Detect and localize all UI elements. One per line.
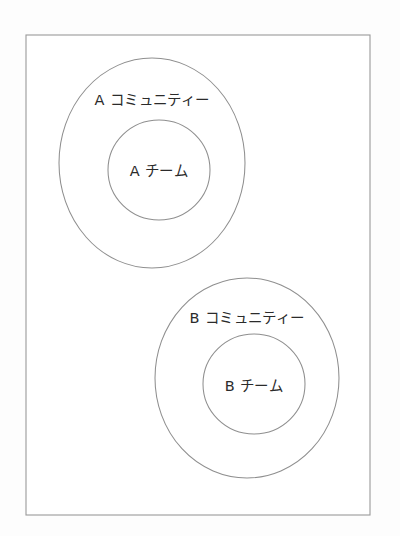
a-community-label: A コミュニティー bbox=[94, 93, 209, 108]
diagram-canvas: A コミュニティー A チーム B コミュニティー B チーム bbox=[0, 0, 400, 536]
b-team-label: B チーム bbox=[225, 379, 284, 394]
a-team-label: A チーム bbox=[130, 164, 189, 179]
diagram-shapes bbox=[0, 0, 400, 536]
b-community-label: B コミュニティー bbox=[189, 311, 304, 326]
